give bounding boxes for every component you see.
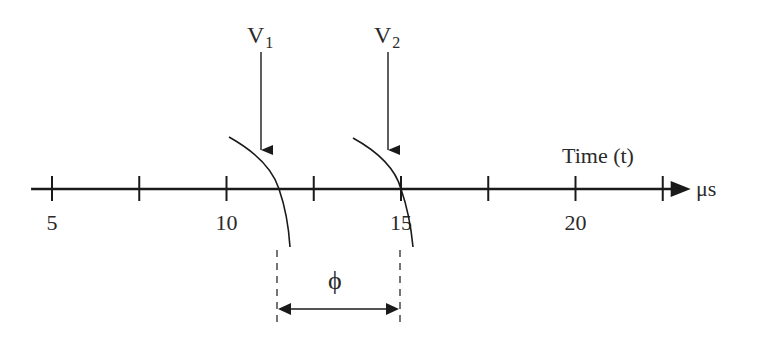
phase-indicator: ϕ	[277, 250, 400, 326]
signal-v1: V1	[229, 22, 290, 247]
signal-v2-label: V2	[374, 22, 400, 51]
axis-unit: μs	[696, 176, 716, 201]
phase-arrowhead-right-icon	[386, 303, 399, 315]
phase-diagram: 5101520 Time (t) μs V1 V2 ϕ	[0, 0, 759, 352]
phase-arrowhead-left-icon	[278, 303, 291, 315]
axis-tick-label: 5	[47, 210, 58, 235]
axis-tick-label: 10	[216, 210, 238, 235]
phase-symbol: ϕ	[328, 266, 342, 295]
signal-v1-label: V1	[247, 22, 273, 51]
axis-tick-label: 20	[565, 210, 587, 235]
axis-tick-labels: 5101520	[47, 210, 587, 235]
axis-arrowhead-icon	[671, 181, 691, 197]
signal-v1-waveform	[229, 137, 290, 247]
axis-label: Time (t)	[562, 143, 634, 168]
